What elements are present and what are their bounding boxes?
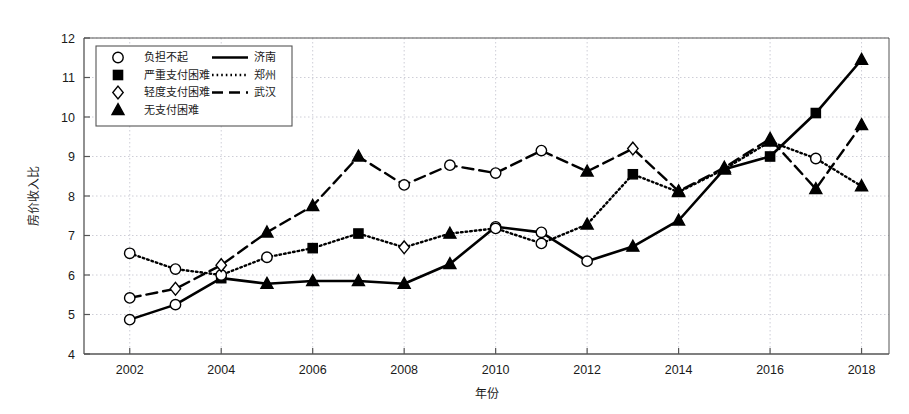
data-point-diamond [399, 241, 409, 254]
y-tick-label: 9 [68, 150, 75, 164]
y-tick-label: 6 [68, 269, 75, 283]
data-point-triangle [856, 53, 868, 64]
data-point-circle [125, 293, 135, 303]
x-tick-label: 2008 [390, 363, 418, 377]
chart-svg: 4567891011122002200420062008201020122014… [0, 0, 909, 414]
x-tick-label: 2004 [207, 363, 235, 377]
x-tick-label: 2002 [116, 363, 144, 377]
data-point-circle [582, 256, 592, 266]
legend-line-label-solid: 济南 [254, 50, 276, 63]
data-point-circle [113, 52, 123, 62]
x-tick-label: 2010 [482, 363, 510, 377]
data-point-triangle [764, 132, 776, 143]
x-axis-label: 年份 [475, 387, 499, 401]
x-tick-label: 2018 [848, 363, 876, 377]
data-point-circle [536, 227, 546, 237]
data-point-diamond [216, 259, 226, 272]
data-point-circle [490, 168, 500, 178]
data-point-triangle [627, 240, 639, 251]
x-tick-label: 2006 [299, 363, 327, 377]
data-point-circle [170, 264, 180, 274]
data-point-square [765, 152, 774, 161]
legend-marker-label-triangle: 无支付困难 [144, 104, 199, 116]
y-tick-label: 7 [68, 229, 75, 243]
data-point-square [811, 108, 820, 117]
data-point-square [308, 244, 317, 253]
data-point-square [354, 229, 363, 238]
data-point-triangle [856, 180, 868, 191]
data-point-circle [536, 145, 546, 155]
data-point-diamond [170, 282, 180, 295]
data-point-circle [125, 314, 135, 324]
data-point-circle [125, 248, 135, 258]
y-tick-label: 12 [61, 32, 75, 46]
data-point-circle [445, 160, 455, 170]
legend-marker-label-circle: 负担不起 [144, 50, 188, 63]
data-point-circle [262, 252, 272, 262]
x-tick-label: 2012 [573, 363, 601, 377]
data-point-circle [490, 223, 500, 233]
data-point-circle [170, 299, 180, 309]
data-point-triangle [856, 119, 868, 130]
x-tick-label: 2016 [756, 363, 784, 377]
x-tick-label: 2014 [665, 363, 693, 377]
data-point-triangle [352, 150, 364, 161]
legend-marker-label-diamond: 轻度支付困难 [144, 85, 210, 98]
chart-figure: 4567891011122002200420062008201020122014… [0, 0, 909, 414]
y-tick-label: 5 [68, 308, 75, 322]
y-tick-label: 4 [68, 348, 75, 362]
y-axis-label: 房价收入比 [26, 166, 41, 226]
legend-line-label-dotted: 郑州 [254, 68, 276, 81]
data-point-circle [399, 180, 409, 190]
data-point-circle [536, 238, 546, 248]
data-point-triangle [261, 226, 273, 237]
data-point-square [113, 70, 122, 79]
y-tick-label: 11 [62, 71, 75, 85]
y-tick-label: 10 [61, 111, 75, 125]
y-tick-label: 8 [68, 190, 75, 204]
data-point-square [628, 170, 637, 179]
data-point-circle [811, 153, 821, 163]
legend-marker-label-square: 严重支付困难 [144, 68, 210, 81]
legend-line-label-dashed: 武汉 [254, 86, 276, 98]
